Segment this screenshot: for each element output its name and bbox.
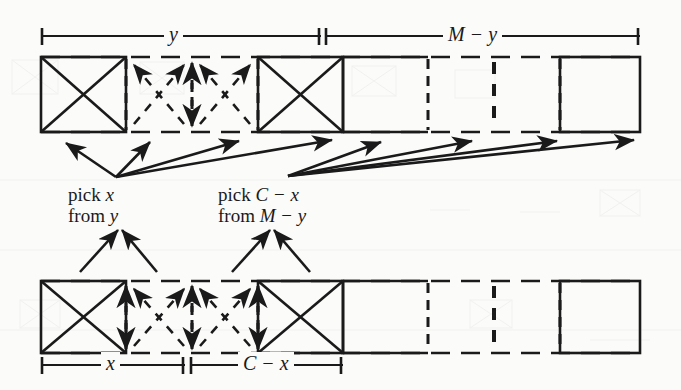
annotation-pick-right-line2: from M − y [218, 205, 306, 226]
pick-right-var2: x [290, 184, 298, 205]
upper-cell-7 [560, 57, 640, 132]
pick-right-var: C [255, 184, 268, 205]
upper-cell-3 [258, 57, 343, 132]
annotation-pick-right: pick C − x from M − y [218, 184, 306, 227]
annotation-pick-left-line1: pick x [68, 184, 118, 205]
annotation-pick-left: pick x from y [68, 184, 118, 227]
pick-left-var: x [105, 184, 113, 205]
pick-right-op: − [268, 184, 290, 205]
fan-arrows-left [66, 140, 332, 177]
from-left-prefix: from [68, 205, 110, 226]
lower-cell-7 [560, 281, 640, 353]
up-arrows-right [232, 230, 310, 272]
from-left-var: y [110, 205, 118, 226]
lower-cell-0 [41, 281, 126, 353]
bottom-dimension-bar [41, 357, 343, 374]
dim-label-x: x [101, 352, 120, 374]
from-right-prefix: from [218, 205, 260, 226]
pick-right-prefix: pick [218, 184, 255, 205]
up-arrows-left [80, 230, 157, 272]
pick-left-prefix: pick [68, 184, 105, 205]
lower-tape-cells [41, 281, 640, 353]
annotation-pick-right-line1: pick C − x [218, 184, 306, 205]
from-right-var: M [260, 205, 276, 226]
from-right-var2: y [298, 205, 306, 226]
upper-cell-1 [134, 65, 184, 124]
upper-cell-0 [41, 57, 126, 132]
lower-cell-4 [343, 281, 428, 353]
lower-cell-2 [200, 289, 250, 346]
figure-root: y M − y x C − x pick x from y pick C − x… [0, 0, 681, 390]
lower-cell-3 [258, 281, 343, 353]
upper-tape-cells [41, 57, 640, 132]
fan-arrows-right [288, 140, 634, 176]
dim-label-y: y [164, 23, 183, 45]
from-right-op: − [276, 205, 298, 226]
top-dimension-bar [41, 28, 640, 45]
lower-cell-1 [134, 289, 184, 346]
dim-label-C-minus-x: C − x [238, 352, 294, 374]
upper-cell-4 [343, 57, 428, 132]
dim-label-M-minus-y: M − y [443, 23, 502, 45]
upper-cell-2 [200, 65, 250, 124]
annotation-pick-left-line2: from y [68, 205, 118, 226]
